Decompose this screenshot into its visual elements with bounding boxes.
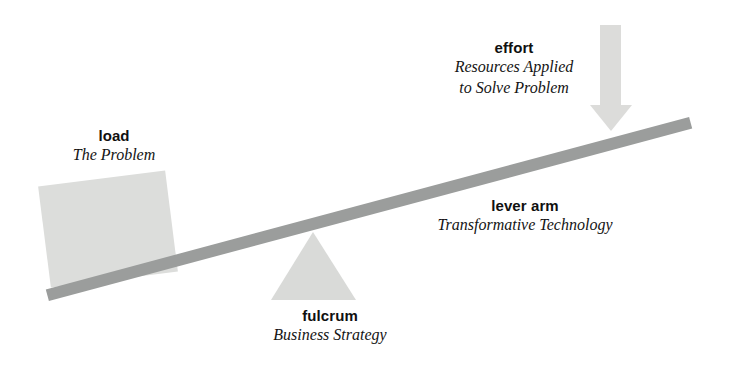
label-lever-arm-term: lever arm bbox=[400, 196, 650, 215]
label-effort: effort Resources Applied to Solve Proble… bbox=[414, 38, 614, 98]
label-fulcrum-term: fulcrum bbox=[225, 306, 435, 325]
label-load: load The Problem bbox=[34, 126, 194, 166]
label-lever-arm: lever arm Transformative Technology bbox=[400, 196, 650, 236]
fulcrum-triangle bbox=[271, 232, 356, 300]
label-lever-arm-description: Transformative Technology bbox=[400, 215, 650, 235]
lever-diagram: load The Problem effort Resources Applie… bbox=[0, 0, 730, 371]
label-load-description: The Problem bbox=[34, 145, 194, 165]
label-load-term: load bbox=[34, 126, 194, 145]
label-fulcrum-description: Business Strategy bbox=[225, 325, 435, 345]
label-effort-description: Resources Applied to Solve Problem bbox=[414, 57, 614, 98]
label-effort-term: effort bbox=[414, 38, 614, 57]
label-fulcrum: fulcrum Business Strategy bbox=[225, 306, 435, 346]
